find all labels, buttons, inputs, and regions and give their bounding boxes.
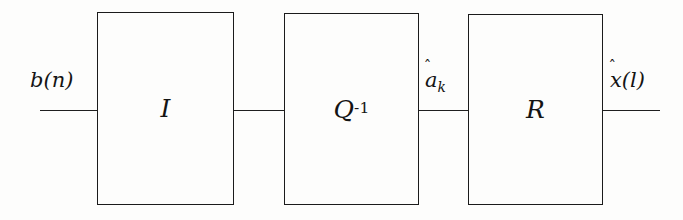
signal-label-a-hat-k: ̂ a k [425, 70, 446, 95]
wire-q-inverse-to-r [419, 110, 468, 111]
signal-x-suffix: (l) [622, 68, 645, 92]
block-diagram-figure: I Q-1 R b(n) ̂ a k ̂ x (l) [0, 0, 683, 220]
wire-r-to-output [603, 110, 660, 111]
block-q-inverse-exponent: -1 [354, 101, 370, 117]
block-q-inverse-label: Q-1 [284, 13, 419, 205]
signal-a-subscript: k [438, 79, 446, 95]
block-r-label-text: R [526, 97, 545, 122]
block-r-label: R [468, 14, 603, 205]
signal-label-x-hat-l: ̂ x (l) [610, 70, 645, 91]
signal-input-base: b [30, 68, 43, 92]
wire-i-to-q-inverse [234, 110, 284, 111]
signal-a-hat-group: ̂ a [425, 70, 438, 91]
wire-input-to-i [40, 110, 97, 111]
block-q-inverse-label-text: Q [334, 97, 355, 122]
block-i-label-text: I [161, 96, 171, 121]
signal-x-base: x [610, 70, 622, 91]
signal-input-suffix: (n) [43, 68, 73, 92]
block-i-label: I [97, 12, 234, 205]
signal-x-hat-group: ̂ x [610, 70, 622, 91]
signal-label-input: b(n) [30, 70, 73, 91]
signal-a-base: a [425, 70, 438, 91]
